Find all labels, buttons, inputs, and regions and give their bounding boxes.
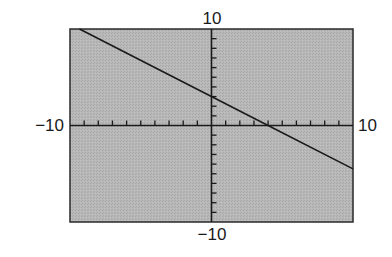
graphing-calculator-window: 10 −10 −10 10 <box>0 0 392 257</box>
y-max-label: 10 <box>203 9 222 28</box>
x-min-label: −10 <box>35 116 64 135</box>
x-max-label: 10 <box>358 116 377 135</box>
y-min-label: −10 <box>198 225 227 244</box>
